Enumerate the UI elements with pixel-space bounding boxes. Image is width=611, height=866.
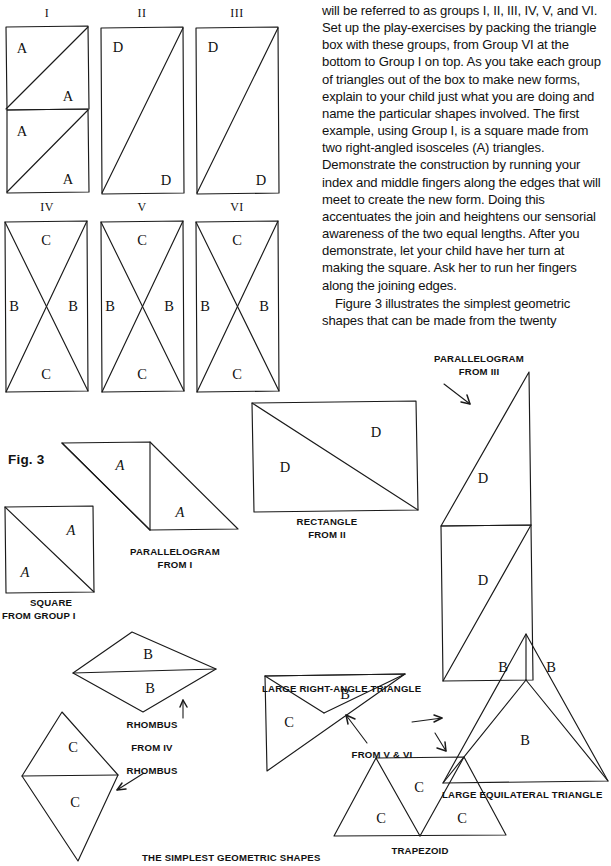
- parallelogram-from-iii-shape: [441, 372, 533, 681]
- label-trapezoid: TRAPEZOID: [391, 845, 448, 858]
- label-rhombus-b-from: FROM IV: [131, 742, 172, 755]
- arrow-parallelogram-iii: [444, 384, 470, 404]
- letter-c: C: [376, 810, 386, 827]
- letter-b: B: [145, 680, 155, 697]
- label-rectangle-ii-from: FROM II: [308, 529, 346, 542]
- group-label-v: V: [137, 200, 146, 215]
- group-label-i: I: [45, 6, 50, 21]
- rectangle-from-ii-shape: [252, 401, 418, 512]
- letter-a: A: [63, 88, 73, 105]
- letter-a: A: [63, 171, 73, 188]
- label-parallelogram-i: PARALLELOGRAM: [130, 546, 220, 559]
- letter-c: C: [414, 779, 424, 796]
- arrow-from-v-vi-left: [346, 715, 367, 743]
- letter-d: D: [478, 572, 488, 589]
- body-text-column: will be referred to as groups I, II, III…: [322, 2, 608, 329]
- letter-c: C: [232, 232, 242, 249]
- label-rhombus-c: RHOMBUS: [127, 765, 178, 778]
- letter-a: A: [17, 40, 27, 57]
- letter-b: B: [340, 686, 350, 703]
- rhombus-from-iv-shape: [73, 632, 216, 712]
- page-canvas: I II III IV V VI A A A A D D D D C B B C…: [0, 0, 611, 866]
- letter-d: D: [208, 39, 218, 56]
- label-square: SQUARE: [30, 597, 72, 610]
- large-equilateral-triangle-shape: [443, 634, 608, 783]
- figure-3-caption: THE SIMPLEST GEOMETRIC SHAPES: [142, 852, 321, 865]
- label-parallelogram-i-from: FROM I: [158, 559, 193, 572]
- letter-c: C: [284, 714, 294, 731]
- letter-d: D: [478, 470, 488, 487]
- letter-d: D: [280, 459, 290, 476]
- group-label-ii: II: [138, 6, 147, 21]
- letter-b: B: [68, 298, 78, 315]
- square-from-group-i-shape: [5, 506, 94, 593]
- label-from-v-and-vi: FROM V & VI: [352, 749, 413, 762]
- letter-b: B: [200, 298, 210, 315]
- label-square-from: FROM GROUP I: [2, 610, 76, 623]
- letter-a: A: [116, 457, 125, 474]
- letter-b: B: [143, 646, 153, 663]
- body-paragraph-1: will be referred to as groups I, II, III…: [322, 2, 608, 294]
- figure-3-label: Fig. 3: [8, 452, 44, 467]
- label-rectangle-ii: RECTANGLE: [297, 516, 358, 529]
- label-rhombus-b: RHOMBUS: [127, 719, 178, 732]
- letter-a: A: [21, 564, 30, 581]
- letter-d: D: [161, 172, 171, 189]
- arrow-from-v-vi-right: [412, 715, 442, 722]
- body-paragraph-2: Figure 3 illustrates the simplest geomet…: [322, 295, 608, 329]
- group-label-iv: IV: [40, 200, 54, 215]
- label-parallelogram-iii: PARALLELOGRAM: [434, 353, 524, 366]
- parallelogram-from-i-shape: [62, 442, 238, 530]
- letter-b: B: [498, 659, 508, 676]
- letter-c: C: [457, 810, 467, 827]
- group-label-iii: III: [230, 6, 244, 21]
- label-parallelogram-iii-from: FROM III: [459, 366, 500, 379]
- letter-a: A: [67, 522, 76, 539]
- arrow-trapezoid: [435, 733, 446, 751]
- letter-d: D: [371, 424, 381, 441]
- letter-c: C: [41, 232, 51, 249]
- letter-c: C: [232, 366, 242, 383]
- letter-a: A: [17, 123, 27, 140]
- letter-d: D: [256, 172, 266, 189]
- letter-b: B: [105, 298, 115, 315]
- letter-c: C: [137, 232, 147, 249]
- letter-b: B: [9, 298, 19, 315]
- letter-c: C: [41, 366, 51, 383]
- letter-c: C: [70, 794, 80, 811]
- letter-b: B: [520, 732, 530, 749]
- letter-a: A: [176, 504, 185, 521]
- letter-b: B: [546, 659, 556, 676]
- letter-c: C: [68, 739, 78, 756]
- rhombus-c-shape: [22, 712, 118, 861]
- group-label-vi: VI: [230, 200, 244, 215]
- letter-d: D: [113, 39, 123, 56]
- letter-b: B: [164, 298, 174, 315]
- arrow-rhombus-b: [180, 700, 187, 718]
- label-large-equilateral-triangle: LARGE EQUILATERAL TRIANGLE: [442, 789, 602, 802]
- letter-b: B: [259, 298, 269, 315]
- letter-c: C: [137, 366, 147, 383]
